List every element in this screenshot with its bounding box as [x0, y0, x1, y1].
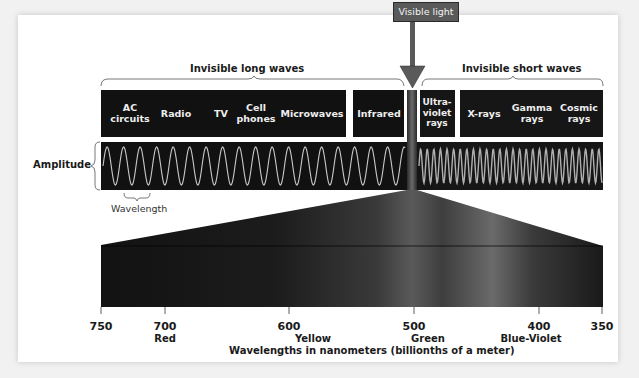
band-microwaves: Microwaves	[280, 108, 343, 119]
wavelength-brace	[124, 193, 150, 201]
tick-700: 700	[154, 320, 177, 333]
tick-750: 750	[90, 320, 113, 333]
band-radio: Radio	[161, 108, 191, 119]
band-x-rays: X-rays	[467, 108, 500, 119]
band-ultraviolet: Ultra-violetrays	[423, 97, 452, 129]
tick-600: 600	[278, 320, 301, 333]
color-green: Green	[411, 333, 445, 344]
color-yellow: Yellow	[295, 333, 331, 344]
visible-light-label: Visible light	[393, 2, 459, 22]
color-red: Red	[154, 333, 176, 344]
tick-500: 500	[403, 320, 426, 333]
spectrum-funnel	[101, 190, 603, 307]
color-blue-violet: Blue-Violet	[500, 333, 561, 344]
band-cell-phones: Cellphones	[237, 102, 276, 124]
tick-350: 350	[591, 320, 614, 333]
band-infrared: Infrared	[357, 108, 400, 119]
long-waves-brace	[101, 76, 404, 86]
wavelength-label: Wavelength	[111, 203, 167, 214]
tick-400: 400	[528, 320, 551, 333]
band-tv: TV	[214, 108, 228, 119]
short-waves-heading: Invisible short waves	[462, 63, 581, 74]
band-cosmic-rays: Cosmicrays	[560, 102, 598, 124]
band-gamma-rays: Gammarays	[512, 102, 552, 124]
amplitude-brace	[91, 142, 100, 190]
amplitude-label: Amplitude	[33, 159, 91, 170]
axis-title: Wavelengths in nanometers (billionths of…	[229, 345, 515, 356]
band-ac-circuits: ACcircuits	[110, 102, 149, 124]
short-waves-brace	[422, 76, 603, 86]
axis-ticks	[101, 307, 602, 314]
long-waves-heading: Invisible long waves	[190, 63, 304, 74]
visible-light-arrow	[400, 22, 425, 88]
